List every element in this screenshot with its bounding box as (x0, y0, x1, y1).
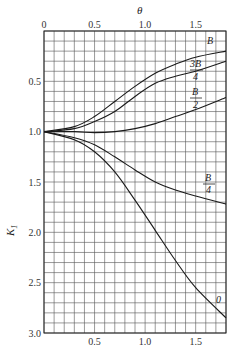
svg-text:4: 4 (206, 184, 211, 195)
y-tick: 1.5 (29, 177, 42, 188)
x-tick-bottom: 0.5 (88, 336, 101, 347)
x-axis-title: θ (137, 4, 143, 16)
curve-label-0: 0 (216, 294, 221, 305)
curve-label-B: B (207, 35, 213, 46)
x-tick-top: 1.0 (139, 19, 152, 30)
x-tick-bottom: 1.5 (189, 336, 202, 347)
svg-text:4: 4 (193, 71, 198, 82)
svg-text:2: 2 (193, 99, 198, 110)
y-tick: 1.0 (29, 126, 42, 137)
svg-text:B: B (192, 86, 198, 97)
curve-label-B4: B 4 (203, 172, 215, 195)
chart: 00.51.01.50.51.01.50.51.01.52.02.53.0 θ … (0, 0, 241, 361)
y-tick: 2.5 (29, 277, 42, 288)
grid (44, 31, 226, 333)
x-tick-top: 1.5 (189, 19, 202, 30)
svg-text:3B: 3B (189, 58, 201, 69)
y-tick: 0.5 (29, 76, 42, 87)
y-tick: 3.0 (29, 328, 42, 339)
x-tick-top: 0 (42, 19, 47, 30)
y-axis-title: K1 (4, 225, 19, 237)
x-tick-bottom: 1.0 (139, 336, 152, 347)
x-tick-top: 0.5 (88, 19, 101, 30)
svg-text:B: B (205, 172, 211, 183)
y-tick: 2.0 (29, 227, 42, 238)
curve-label-B2: B 2 (190, 86, 202, 110)
tick-labels: 00.51.01.50.51.01.50.51.01.52.02.53.0 (29, 19, 202, 347)
curve-label-3B4: 3B 4 (189, 58, 203, 82)
